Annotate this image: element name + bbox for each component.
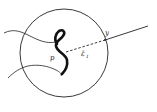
thick-s-curve [55, 30, 67, 74]
outward-ray [105, 26, 148, 40]
label-epsilon: ε̄ [81, 50, 85, 58]
dashed-segment [66, 40, 105, 52]
upper-thin-curve [4, 31, 56, 43]
label-p: p [50, 54, 55, 62]
ball-circle [20, 9, 108, 97]
point-y-marker [104, 39, 106, 41]
label-epsilon-subscript: 1 [86, 54, 89, 59]
label-y: y [104, 29, 110, 37]
lower-thin-curve [8, 65, 61, 78]
diagram-canvas: p y ε̄ 1 [0, 0, 157, 112]
